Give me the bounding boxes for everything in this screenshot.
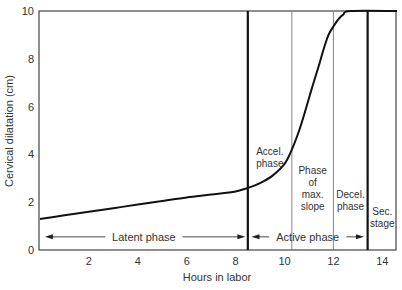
chart-svg: Accel.phasePhaseofmax.slopeDecel.phaseSe… xyxy=(0,0,402,290)
y-axis-title: Cervical dilatation (cm) xyxy=(3,75,15,187)
phase-span-label: Latent phase xyxy=(112,231,176,243)
phase-span-label: Active phase xyxy=(276,231,339,243)
phase-label: Phase xyxy=(298,165,327,176)
phase-label: of xyxy=(308,177,317,188)
x-tick-label: 14 xyxy=(376,255,388,267)
y-tick-label: 10 xyxy=(22,5,34,17)
phase-label: Accel. xyxy=(256,146,283,157)
phase-label: stage xyxy=(370,218,395,229)
plot-frame xyxy=(39,11,396,250)
x-tick-label: 2 xyxy=(86,255,92,267)
x-tick-label: 8 xyxy=(233,255,239,267)
phase-label: phase xyxy=(256,158,284,169)
dilatation-curve xyxy=(40,11,397,219)
y-tick-label: 4 xyxy=(28,148,34,160)
arrow-right-icon xyxy=(237,234,245,239)
phase-divider-lines xyxy=(248,11,368,250)
x-tick-label: 12 xyxy=(327,255,339,267)
phase-label: Sec. xyxy=(372,206,392,217)
phase-label: Decel. xyxy=(336,189,364,200)
y-axis-ticks: 0246810 xyxy=(22,5,34,256)
x-tick-label: 4 xyxy=(135,255,141,267)
arrow-left-icon xyxy=(45,234,53,239)
phase-label: phase xyxy=(337,201,365,212)
y-tick-label: 6 xyxy=(28,101,34,113)
series-line xyxy=(40,11,397,219)
x-tick-label: 6 xyxy=(184,255,190,267)
x-tick-label: 10 xyxy=(278,255,290,267)
phase-label: slope xyxy=(301,201,325,212)
arrow-right-icon xyxy=(356,234,364,239)
arrow-left-icon xyxy=(251,234,259,239)
y-tick-label: 0 xyxy=(28,244,34,256)
x-axis-title: Hours in labor xyxy=(183,271,252,283)
labor-curve-chart: Accel.phasePhaseofmax.slopeDecel.phaseSe… xyxy=(0,0,402,290)
y-tick-label: 2 xyxy=(28,196,34,208)
plot-border xyxy=(39,11,396,250)
phase-label: max. xyxy=(302,189,324,200)
x-axis-ticks: 2468101214 xyxy=(86,255,389,267)
y-tick-label: 8 xyxy=(28,53,34,65)
